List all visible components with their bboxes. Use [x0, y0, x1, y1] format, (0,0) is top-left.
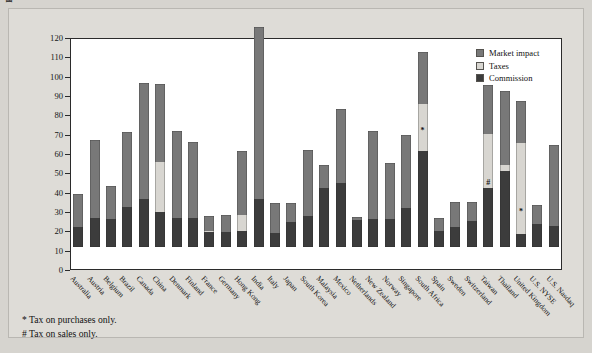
- bar-belgium[interactable]: [106, 186, 116, 247]
- bar-segment-market-impact: [106, 186, 116, 219]
- bar-segment-commission: [139, 199, 149, 247]
- bar-segment-market-impact: [532, 205, 542, 223]
- bar-segment-taxes: [516, 143, 526, 235]
- y-axis-tick-mark: [65, 251, 70, 252]
- bar-segment-market-impact: [319, 165, 329, 188]
- bar-new-zealand[interactable]: [368, 131, 378, 247]
- bar-segment-market-impact: [139, 83, 149, 199]
- y-axis-tick-mark: [65, 270, 70, 271]
- bar-segment-market-impact: [73, 194, 83, 227]
- bar-segment-commission: [270, 233, 280, 248]
- bar-sweden[interactable]: [450, 202, 460, 247]
- bar-segment-market-impact: [516, 101, 526, 143]
- y-axis-tick-label: 80: [8, 110, 70, 120]
- bar-singapore[interactable]: [401, 135, 411, 247]
- bar-norway[interactable]: [385, 163, 395, 247]
- bar-malaysia[interactable]: [319, 165, 329, 247]
- bar-segment-market-impact: [204, 216, 214, 231]
- bar-u-s-nasdaq[interactable]: [549, 145, 559, 247]
- x-axis-label-japan: Japan: [282, 274, 300, 293]
- bar-segment-commission: [549, 226, 559, 247]
- legend-label: Commission: [489, 73, 532, 83]
- bar-segment-commission: [319, 188, 329, 247]
- bar-segment-commission: [90, 218, 100, 247]
- bar-netherlands[interactable]: [352, 217, 362, 247]
- bar-segment-commission: [188, 218, 198, 247]
- bar-india[interactable]: [254, 27, 264, 247]
- bar-canada[interactable]: [139, 83, 149, 247]
- bar-segment-market-impact: [352, 217, 362, 220]
- bar-denmark[interactable]: [172, 131, 182, 247]
- y-axis-tick-label: 90: [8, 91, 70, 101]
- bar-segment-market-impact: [221, 215, 231, 231]
- y-axis-tick-mark: [65, 173, 70, 174]
- bar-segment-commission: [467, 221, 477, 247]
- bar-segment-market-impact: [188, 142, 198, 218]
- bar-segment-commission: [204, 232, 214, 247]
- legend-item-commission[interactable]: Commission: [476, 73, 539, 83]
- legend-item-market-impact[interactable]: Market impact: [476, 48, 539, 58]
- chart-legend: Market impactTaxesCommission: [476, 48, 539, 86]
- bar-segment-market-impact: [155, 84, 165, 162]
- bar-switzerland[interactable]: [467, 202, 477, 247]
- bar-brazil[interactable]: [122, 132, 132, 247]
- y-axis-tick-mark: [65, 38, 70, 39]
- bar-segment-taxes: [237, 215, 247, 230]
- bar-segment-market-impact: [450, 202, 460, 227]
- bar-china[interactable]: [155, 84, 165, 247]
- bar-segment-commission: [434, 231, 444, 247]
- bar-italy[interactable]: [270, 203, 280, 247]
- y-axis-tick-mark: [65, 193, 70, 194]
- bar-taiwan[interactable]: [483, 85, 493, 247]
- bar-segment-commission: [483, 188, 493, 247]
- bar-segment-commission: [303, 216, 313, 247]
- bar-france[interactable]: [204, 216, 214, 247]
- bar-segment-commission: [254, 199, 264, 247]
- bar-segment-commission: [286, 222, 296, 247]
- bar-segment-market-impact: [254, 27, 264, 199]
- y-axis-tick-mark: [65, 231, 70, 232]
- bar-segment-market-impact: [467, 202, 477, 221]
- bar-thailand[interactable]: [500, 91, 510, 247]
- y-axis-tick-mark: [65, 77, 70, 78]
- bar-mexico[interactable]: [336, 109, 346, 247]
- y-axis-tick-label: 40: [8, 188, 70, 198]
- bar-segment-commission: [500, 171, 510, 247]
- bar-germany[interactable]: [221, 215, 231, 247]
- bar-segment-market-impact: [368, 131, 378, 219]
- bar-segment-commission: [155, 212, 165, 247]
- y-axis-tick-label: 0: [8, 265, 70, 275]
- y-axis-tick-label: 10: [8, 246, 70, 256]
- y-axis-tick-label: 20: [8, 226, 70, 236]
- bar-austria[interactable]: [90, 140, 100, 247]
- y-axis-tick-label: 60: [8, 149, 70, 159]
- bar-segment-taxes: [500, 165, 510, 171]
- bar-hong-kong[interactable]: [237, 151, 247, 247]
- bar-japan[interactable]: [286, 203, 296, 247]
- y-axis-tick-label: 50: [8, 168, 70, 178]
- y-axis-tick-label: 120: [8, 33, 70, 43]
- bar-australia[interactable]: [73, 194, 83, 247]
- bar-segment-commission: [368, 219, 378, 247]
- y-axis-tick-mark: [65, 115, 70, 116]
- y-axis-tick-mark: [65, 96, 70, 97]
- y-axis-tick-mark: [65, 212, 70, 213]
- bar-segment-market-impact: [303, 150, 313, 216]
- y-axis-tick-label: 70: [8, 130, 70, 140]
- bar-south-korea[interactable]: [303, 150, 313, 247]
- bar-segment-market-impact: [385, 163, 395, 219]
- legend-item-taxes[interactable]: Taxes: [476, 61, 539, 71]
- bar-segment-market-impact: [549, 145, 559, 226]
- bar-united-kingdom[interactable]: [516, 101, 526, 247]
- legend-swatch-icon: [476, 62, 484, 70]
- bar-segment-market-impact: [434, 218, 444, 231]
- bar-segment-commission: [532, 224, 542, 247]
- bar-segment-market-impact: [286, 203, 296, 222]
- bar-finland[interactable]: [188, 142, 198, 247]
- bar-u-s-nyse[interactable]: [532, 205, 542, 247]
- bar-segment-market-impact: [237, 151, 247, 215]
- bar-segment-commission: [221, 232, 231, 247]
- bar-spain[interactable]: [434, 218, 444, 247]
- y-axis-tick-mark: [65, 57, 70, 58]
- bar-south-africa[interactable]: [418, 52, 428, 247]
